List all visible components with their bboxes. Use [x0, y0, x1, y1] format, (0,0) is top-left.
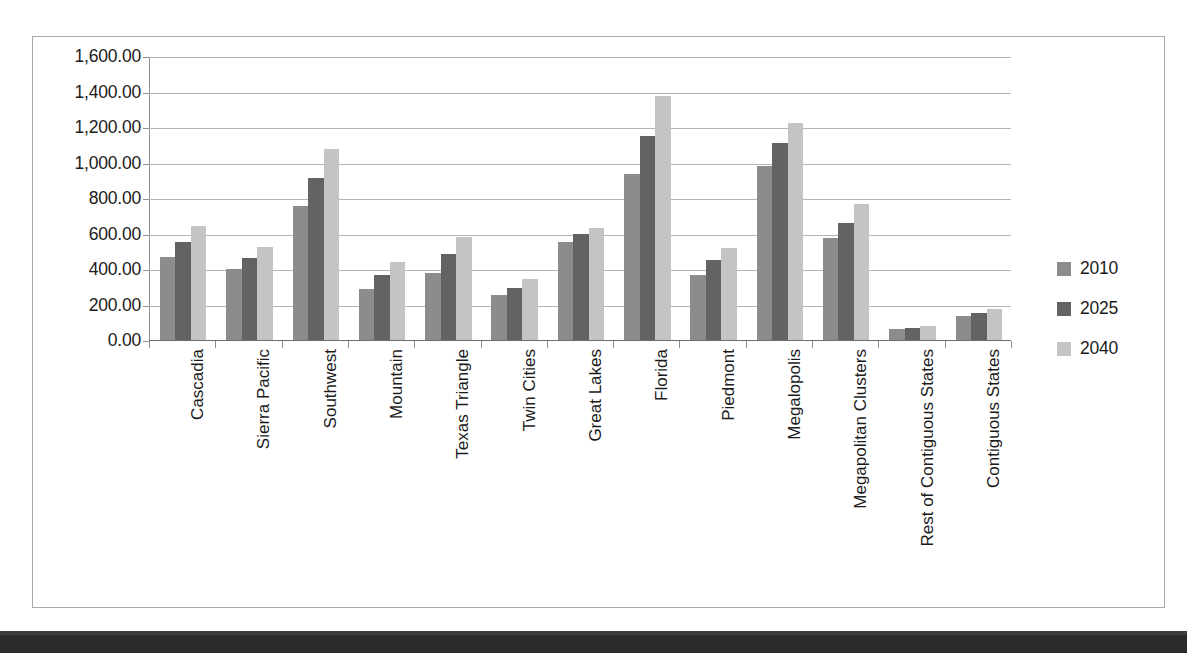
y-tick-label: 400.00: [33, 261, 141, 279]
x-tick-mark: [414, 341, 415, 348]
bar[interactable]: [905, 328, 921, 340]
bar[interactable]: [522, 279, 538, 340]
bar-group: [226, 57, 273, 340]
x-axis-label-mountain: Mountain: [388, 349, 405, 419]
bar[interactable]: [390, 262, 406, 340]
bar[interactable]: [293, 206, 309, 340]
bar[interactable]: [160, 257, 176, 340]
legend-swatch-icon: [1057, 302, 1071, 316]
x-tick-mark: [149, 341, 150, 348]
y-tick-label: 800.00: [33, 190, 141, 208]
bar[interactable]: [257, 247, 273, 340]
x-tick-mark: [215, 341, 216, 348]
x-tick-mark: [1011, 341, 1012, 348]
bar[interactable]: [706, 260, 722, 340]
bar-group: [491, 57, 538, 340]
y-tick-mark: [143, 93, 149, 94]
x-axis-label-sierra-pacific: Sierra Pacific: [255, 349, 272, 449]
x-tick-mark: [547, 341, 548, 348]
bar-group: [160, 57, 207, 340]
bar[interactable]: [589, 228, 605, 340]
x-tick-mark: [348, 341, 349, 348]
legend-label: 2040: [1080, 340, 1118, 358]
bar[interactable]: [507, 288, 523, 340]
y-tick-label: 1,000.00: [33, 155, 141, 173]
x-axis-label-piedmont: Piedmont: [720, 349, 737, 421]
bar[interactable]: [838, 223, 854, 340]
legend-swatch-icon: [1057, 262, 1071, 276]
x-axis-label-megalopolis: Megalopolis: [786, 349, 803, 440]
bar-group: [359, 57, 406, 340]
bar[interactable]: [573, 234, 589, 341]
legend-item-2040[interactable]: 2040: [1057, 329, 1157, 369]
bar[interactable]: [226, 269, 242, 340]
y-tick-label: 1,200.00: [33, 119, 141, 137]
bar[interactable]: [324, 149, 340, 340]
bar[interactable]: [971, 313, 987, 340]
scan-edge-band: [0, 631, 1187, 653]
bar[interactable]: [491, 295, 507, 340]
y-tick-mark: [143, 270, 149, 271]
x-axis-line: [149, 340, 1011, 341]
bar[interactable]: [624, 174, 640, 340]
bar[interactable]: [558, 242, 574, 340]
bar-group: [624, 57, 671, 340]
plot-area: [149, 57, 1011, 341]
bar[interactable]: [854, 204, 870, 340]
x-axis-label-twin-cities: Twin Cities: [521, 349, 538, 431]
bar[interactable]: [721, 248, 737, 340]
bar[interactable]: [242, 258, 258, 340]
y-tick-mark: [143, 128, 149, 129]
x-axis-label-text: Great Lakes: [587, 349, 604, 442]
bar-group: [956, 57, 1003, 340]
bar[interactable]: [640, 136, 656, 340]
bar[interactable]: [690, 275, 706, 340]
bar[interactable]: [655, 96, 671, 340]
y-tick-mark: [143, 306, 149, 307]
bar[interactable]: [191, 226, 207, 340]
bar[interactable]: [175, 242, 191, 340]
y-tick-label: 1,600.00: [33, 48, 141, 66]
y-tick-label: 1,400.00: [33, 84, 141, 102]
scan-edge-highlight: [0, 631, 1187, 635]
legend-swatch-icon: [1057, 342, 1071, 356]
y-tick-mark: [143, 164, 149, 165]
x-tick-mark: [679, 341, 680, 348]
x-tick-mark: [481, 341, 482, 348]
bar[interactable]: [987, 309, 1003, 340]
y-tick-mark: [143, 235, 149, 236]
legend-label: 2010: [1080, 260, 1118, 278]
bar-group: [425, 57, 472, 340]
y-tick-mark: [143, 57, 149, 58]
x-tick-mark: [613, 341, 614, 348]
bar[interactable]: [788, 123, 804, 340]
bar[interactable]: [359, 289, 375, 340]
legend-item-2010[interactable]: 2010: [1057, 249, 1157, 289]
bar[interactable]: [425, 273, 441, 340]
bar-group: [293, 57, 340, 340]
bar[interactable]: [456, 237, 472, 340]
x-tick-mark: [282, 341, 283, 348]
bar[interactable]: [772, 143, 788, 340]
x-axis-label-great-lakes: Great Lakes: [587, 349, 604, 442]
bar[interactable]: [889, 329, 905, 340]
bar[interactable]: [441, 254, 457, 340]
y-tick-label: 200.00: [33, 297, 141, 315]
bar[interactable]: [920, 326, 936, 340]
x-axis-label-text: Rest of Contiguous States: [919, 349, 936, 547]
chart-legend: 201020252040: [1057, 249, 1157, 369]
x-axis-label-megapolitan-clusters: Megapolitan Clusters: [852, 349, 869, 509]
x-axis-label-text: Piedmont: [720, 349, 737, 421]
x-tick-mark: [945, 341, 946, 348]
bar[interactable]: [757, 166, 773, 340]
bar-chart: 1,600.001,400.001,200.001,000.00800.0060…: [33, 37, 1166, 609]
x-tick-mark: [812, 341, 813, 348]
bar[interactable]: [956, 316, 972, 340]
bar[interactable]: [374, 275, 390, 340]
bar[interactable]: [823, 238, 839, 340]
x-axis-label-text: Southwest: [322, 349, 339, 428]
bar[interactable]: [308, 178, 324, 340]
x-axis-label-texas-triangle: Texas Triangle: [454, 349, 471, 459]
legend-item-2025[interactable]: 2025: [1057, 289, 1157, 329]
bar-group: [757, 57, 804, 340]
